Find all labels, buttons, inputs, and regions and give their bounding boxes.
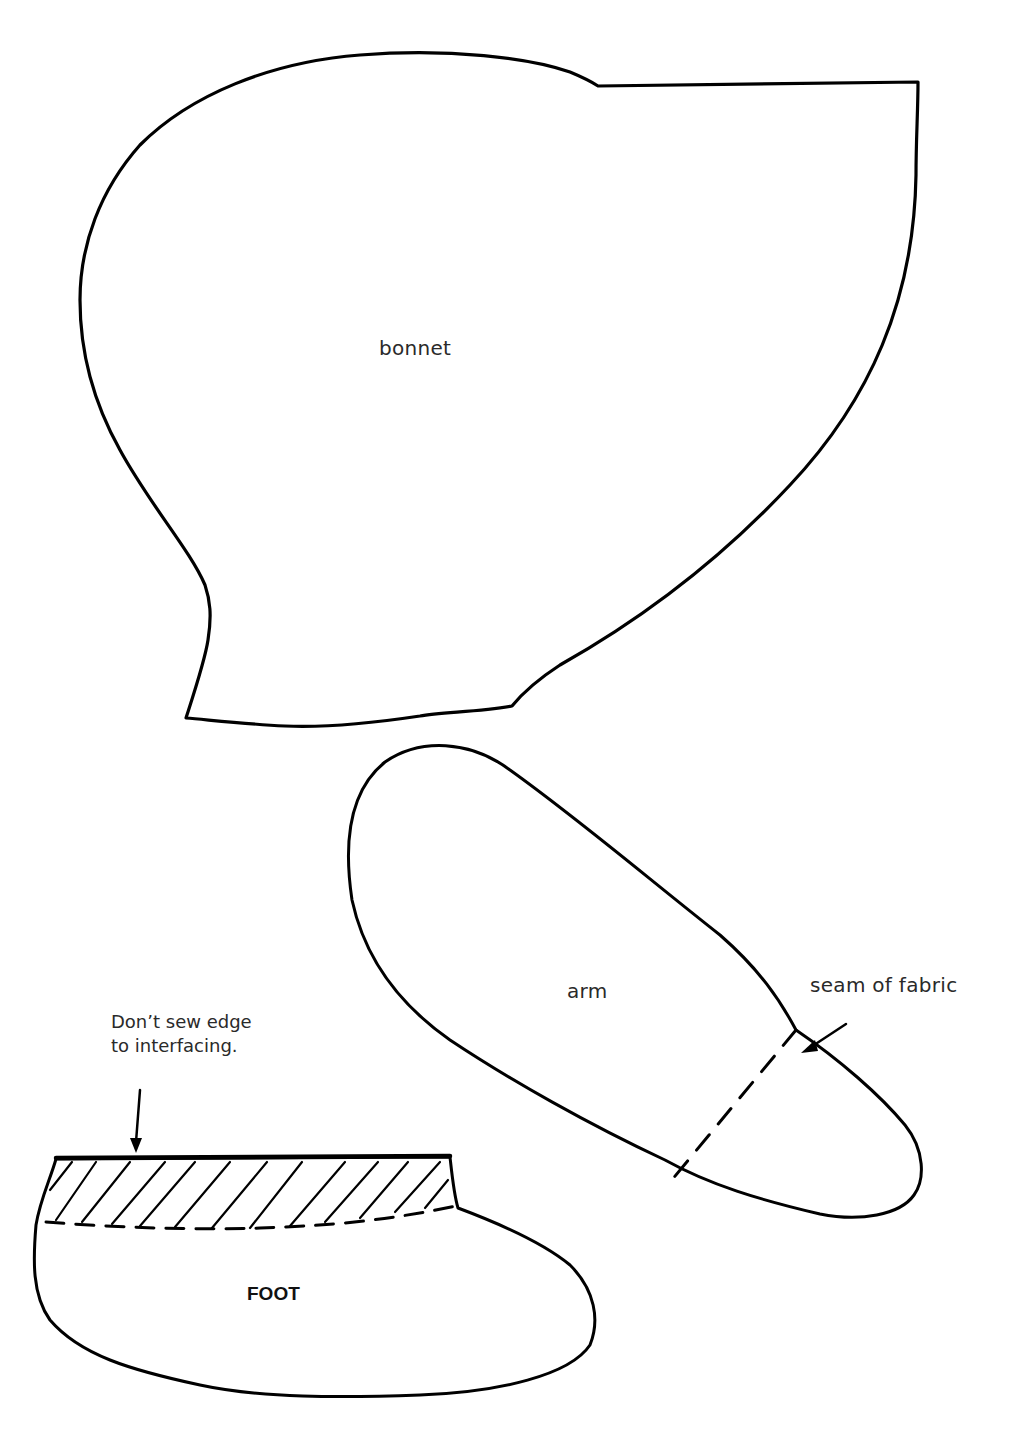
foot-outline — [34, 1157, 595, 1397]
arm-label: arm — [567, 979, 608, 1003]
foot-top-edge — [56, 1156, 450, 1158]
foot-label: FOOT — [247, 1283, 300, 1305]
interfacing-arrow-icon — [130, 1090, 142, 1153]
bonnet-outline — [80, 53, 918, 727]
arm-seam-line — [666, 1030, 796, 1187]
interfacing-annotation-line2: to interfacing. — [111, 1034, 252, 1058]
interfacing-annotation-line1: Don’t sew edge — [111, 1010, 252, 1034]
bonnet-label: bonnet — [379, 336, 451, 360]
pattern-drawing — [0, 0, 1012, 1453]
pattern-page: bonnet arm FOOT seam of fabric Don’t sew… — [0, 0, 1012, 1453]
interfacing-annotation: Don’t sew edge to interfacing. — [111, 1010, 252, 1058]
seam-annotation: seam of fabric — [810, 973, 957, 997]
